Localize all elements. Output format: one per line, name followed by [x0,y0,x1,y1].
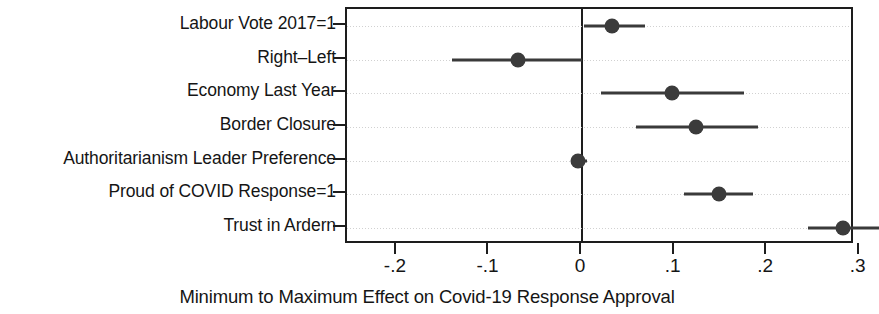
y-axis-tick [333,90,345,92]
plot-panel [345,7,853,243]
zero-reference-line [581,9,583,241]
gridline [347,60,851,61]
y-axis-tick [333,23,345,25]
y-axis-label: Border Closure [0,116,336,134]
x-axis-title: Minimum to Maximum Effect on Covid-19 Re… [0,288,854,307]
y-axis-label: Right–Left [0,49,336,67]
point-estimate-marker [664,86,679,101]
point-estimate-marker [511,52,526,67]
x-axis-tick [764,243,766,254]
x-axis-tick [394,243,396,254]
x-axis-tick [672,243,674,254]
point-estimate-marker [835,221,850,236]
x-axis-tick-label: -.1 [476,256,498,275]
gridline [347,228,851,229]
y-axis-label: Trust in Ardern [0,217,336,235]
y-axis-tick [333,225,345,227]
y-axis-tick [333,57,345,59]
y-axis-tick [333,191,345,193]
x-axis-tick-label: -.2 [384,256,406,275]
y-axis-label: Authoritarianism Leader Preference [0,150,336,168]
gridline [347,161,851,162]
y-axis-label: Proud of COVID Response=1 [0,184,336,202]
x-axis-tick-label: .2 [757,256,773,275]
x-axis-tick [486,243,488,254]
gridline [347,194,851,195]
point-estimate-marker [711,187,726,202]
x-axis-tick-label: .1 [665,256,681,275]
x-axis-tick [857,243,859,254]
point-estimate-marker [688,120,703,135]
x-axis-tick [579,243,581,254]
gridline [347,93,851,94]
y-axis-category-labels: Labour Vote 2017=1Right–LeftEconomy Last… [0,0,336,250]
y-axis-label: Economy Last Year [0,83,336,101]
y-axis-label: Labour Vote 2017=1 [0,15,336,33]
x-axis-tick-label: .3 [850,256,866,275]
y-axis-tick [333,158,345,160]
y-axis-tick [333,124,345,126]
point-estimate-marker [604,18,619,33]
point-estimate-marker [571,153,586,168]
plot-area [347,9,851,241]
gridline [347,127,851,128]
x-axis-tick-label: 0 [575,256,586,275]
